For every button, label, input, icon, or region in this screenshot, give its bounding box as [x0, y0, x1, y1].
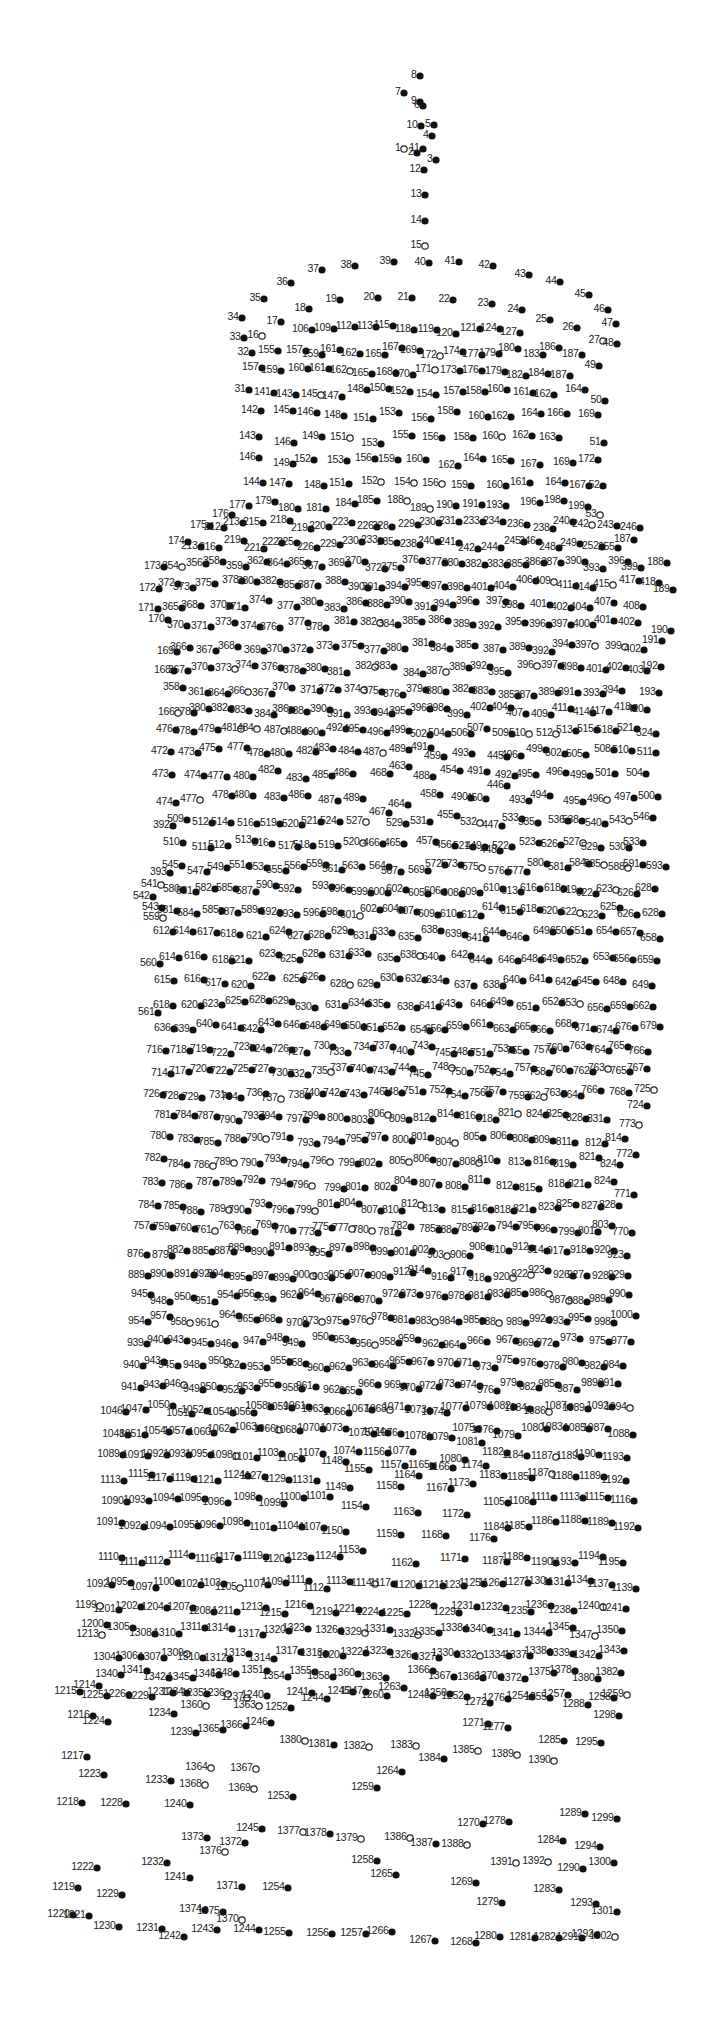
puzzle-dot: 658 [640, 931, 664, 943]
open-circle-dot-icon [427, 506, 433, 512]
filled-dot-icon [536, 499, 543, 506]
filled-dot-icon [234, 1554, 241, 1561]
dot-number-label: 398 [501, 598, 518, 610]
filled-dot-icon [669, 586, 676, 593]
dot-number-label: 945 [131, 1287, 148, 1299]
dot-number-label: 495 [343, 722, 360, 734]
dot-number-label: 729 [182, 1090, 199, 1102]
filled-dot-icon [193, 910, 200, 917]
puzzle-dot: 1077 [387, 1444, 416, 1456]
filled-dot-icon [343, 1115, 350, 1122]
dot-number-label: 1347 [569, 1628, 592, 1640]
dot-number-label: 598 [321, 905, 338, 917]
puzzle-dot: 1379 [335, 1831, 364, 1843]
filled-dot-icon [401, 645, 408, 652]
puzzle-dot: 745 [408, 1067, 432, 1079]
dot-number-label: 973 [560, 1331, 577, 1343]
filled-dot-icon [267, 1719, 274, 1726]
dot-number-label: 1320 [317, 1648, 340, 1660]
puzzle-dot: 160 [482, 429, 505, 441]
dot-number-label: 794 [322, 1134, 339, 1146]
filled-dot-icon [503, 386, 510, 393]
filled-dot-icon [169, 822, 176, 829]
filled-dot-icon [302, 1161, 309, 1168]
puzzle-dot: 1343 [598, 1643, 627, 1655]
puzzle-dot: 950 [200, 1380, 224, 1392]
dot-number-label: 1119 [170, 1471, 191, 1483]
puzzle-dot: 516 [252, 836, 276, 848]
filled-dot-icon [248, 349, 255, 356]
filled-dot-icon [557, 559, 564, 566]
puzzle-dot: 973 [560, 1331, 584, 1343]
dot-number-label: 613 [501, 884, 518, 896]
dot-number-label: 1068 [274, 1423, 297, 1435]
dot-number-label: 399 [605, 639, 622, 651]
dot-number-label: 1167 [426, 1481, 448, 1493]
puzzle-dot: 380 [426, 684, 450, 696]
dot-number-label: 1243 [191, 1922, 214, 1934]
puzzle-dot: 165 [352, 366, 376, 378]
puzzle-dot: 193 [639, 685, 663, 697]
filled-dot-icon [323, 1585, 330, 1592]
puzzle-dot: 371 [225, 600, 249, 612]
puzzle-dot: 770 [612, 1225, 636, 1237]
dot-number-label: 1093 [123, 1493, 146, 1505]
filled-dot-icon [428, 132, 435, 139]
dot-number-label: 373 [215, 615, 232, 627]
puzzle-dot: 159 [378, 452, 402, 464]
dot-number-label: 825 [556, 1197, 573, 1209]
dot-number-label: 244 [481, 540, 498, 552]
dot-number-label: 488 [413, 769, 430, 781]
dot-number-label: 769 [255, 1218, 272, 1230]
dot-number-label: 803 [351, 1113, 368, 1125]
puzzle-dot: 767 [627, 1061, 651, 1073]
puzzle-dot: 160 [486, 478, 510, 490]
puzzle-dot: 784 [167, 1157, 191, 1169]
dot-number-label: 610 [483, 881, 500, 893]
puzzle-dot: 743 [344, 1087, 368, 1099]
filled-dot-icon [415, 1472, 422, 1479]
dot-number-label: 784 [138, 1198, 155, 1210]
filled-dot-icon [186, 1801, 193, 1808]
puzzle-dot: 531 [410, 814, 434, 826]
dot-number-label: 414 [573, 580, 590, 592]
puzzle-dot: 127 [500, 325, 524, 337]
puzzle-dot: 514 [211, 815, 235, 827]
filled-dot-icon [560, 1737, 567, 1744]
dot-number-label: 500 [638, 789, 655, 801]
dot-number-label: 821 [513, 1202, 530, 1214]
puzzle-dot: 972 [536, 1336, 560, 1348]
puzzle-dot: 806 [490, 1129, 514, 1141]
puzzle-dot: 473 [152, 767, 176, 779]
open-circle-dot-icon [601, 862, 607, 868]
filled-dot-icon [384, 1449, 391, 1456]
dot-number-label: 618 [544, 881, 561, 893]
dot-number-label: 1073 [320, 1421, 343, 1433]
dot-number-label: 371 [191, 619, 208, 631]
dot-number-label: 976 [520, 1356, 537, 1368]
dot-number-label: 646 [283, 1018, 300, 1030]
filled-dot-icon [381, 351, 388, 358]
dot-number-label: 143 [276, 387, 293, 399]
filled-dot-icon [287, 279, 294, 286]
dot-number-label: 943 [143, 1378, 160, 1390]
puzzle-dot: 220 [309, 519, 333, 531]
puzzle-dot: 807 [419, 1177, 443, 1189]
puzzle-dot: 388 [287, 704, 311, 716]
puzzle-dot: 616 [184, 949, 208, 961]
dot-number-label: 399 [621, 560, 638, 572]
dot-number-label: 1269 [450, 1875, 473, 1887]
filled-dot-icon [179, 839, 186, 846]
puzzle-dot: 25 [535, 312, 553, 324]
dot-number-label: 975 [496, 1353, 513, 1365]
puzzle-dot: 1189 [587, 1515, 615, 1527]
dot-number-label: 367 [252, 686, 269, 698]
filled-dot-icon [212, 1021, 219, 1028]
filled-dot-icon [258, 1825, 265, 1832]
filled-dot-icon [302, 775, 309, 782]
filled-dot-icon [469, 621, 476, 628]
filled-dot-icon [490, 1535, 497, 1542]
dot-number-label: 1281 [509, 1930, 532, 1942]
filled-dot-icon [336, 818, 343, 825]
filled-dot-icon [410, 1178, 417, 1185]
